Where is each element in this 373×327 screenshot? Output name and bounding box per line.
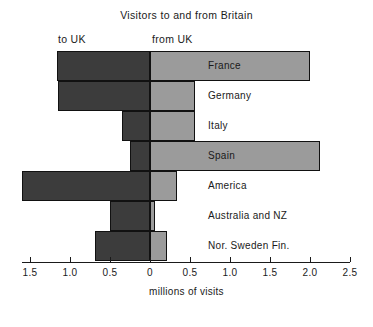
bar-to-uk[interactable] [58, 81, 150, 111]
axis-tick-label: 1.5 [263, 267, 278, 278]
category-label: Spain [208, 141, 235, 171]
x-axis-title: millions of visits [0, 286, 373, 297]
category-label: Australia and NZ [208, 201, 287, 231]
bar-to-uk[interactable] [95, 231, 150, 261]
bar-to-uk[interactable] [22, 171, 150, 201]
axis-tick-label: 1.5 [23, 267, 38, 278]
axis-tick-label: 0.5 [103, 267, 118, 278]
axis-tick-label: 0 [147, 267, 153, 278]
chart-title: Visitors to and from Britain [0, 9, 373, 21]
bar-from-uk[interactable] [150, 111, 195, 141]
bar-to-uk[interactable] [122, 111, 150, 141]
bar-from-uk[interactable] [150, 171, 177, 201]
category-label: America [208, 171, 247, 201]
bar-from-uk[interactable] [150, 201, 155, 231]
axis-tick-label: 0.5 [183, 267, 198, 278]
axis-tick-label: 2.5 [343, 267, 358, 278]
bar-from-uk[interactable] [150, 81, 195, 111]
axis-tick-label: 2.0 [303, 267, 318, 278]
plot-area: FranceGermanyItalySpainAmericaAustralia … [0, 51, 373, 262]
direction-label-to-uk: to UK [58, 33, 86, 45]
axis-tick [30, 257, 31, 262]
axis-tick-label: 1.0 [223, 267, 238, 278]
bar-row: France [0, 51, 373, 81]
bar-row: Australia and NZ [0, 201, 373, 231]
chart-root: Visitors to and from Britain to UK from … [0, 0, 373, 327]
axis-tick [190, 257, 191, 262]
axis-tick [70, 257, 71, 262]
bar-row: Italy [0, 111, 373, 141]
bar-to-uk[interactable] [130, 141, 150, 171]
direction-label-from-uk: from UK [152, 33, 193, 45]
category-label: Nor. Sweden Fin. [208, 231, 290, 261]
axis-line [22, 262, 350, 263]
axis-tick [150, 257, 151, 262]
axis-tick [350, 257, 351, 262]
bar-to-uk[interactable] [110, 201, 150, 231]
axis-tick [110, 257, 111, 262]
category-label: Italy [208, 111, 228, 141]
category-label: Germany [208, 81, 251, 111]
bar-from-uk[interactable] [150, 231, 167, 261]
bar-row: Nor. Sweden Fin. [0, 231, 373, 261]
bar-row: Germany [0, 81, 373, 111]
bar-row: America [0, 171, 373, 201]
bar-row: Spain [0, 141, 373, 171]
axis-tick [310, 257, 311, 262]
category-label: France [208, 51, 241, 81]
x-axis: 1.51.00.500.51.01.52.02.5 millions of vi… [0, 262, 373, 322]
bar-to-uk[interactable] [57, 51, 150, 81]
axis-tick-label: 1.0 [63, 267, 78, 278]
